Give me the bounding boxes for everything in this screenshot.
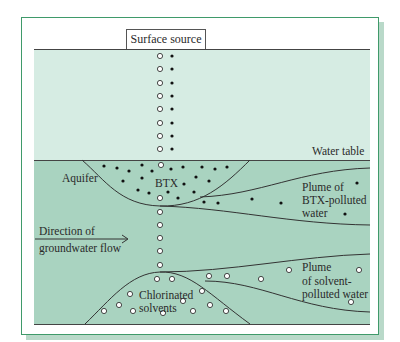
plume-btx-label-line1: Plume of: [302, 181, 344, 194]
surface-source-label: Surface source: [126, 29, 206, 49]
plume-btx-label-line2: BTX-polluted: [302, 194, 367, 207]
aquifer-label: Aquifer: [62, 172, 98, 185]
unsaturated-zone: [34, 49, 370, 160]
direction-label-line1: Direction of: [39, 225, 95, 238]
btx-label: BTX: [155, 177, 178, 190]
plume-solvent-label-line2: of solvent-: [302, 275, 352, 288]
chlorinated-solvents-label-line2: solvents: [139, 302, 177, 315]
plume-btx-label-line3: water: [302, 207, 328, 220]
plume-solvent-label-line1: Plume: [302, 261, 331, 274]
direction-label-line2: groundwater flow: [39, 242, 121, 255]
chlorinated-solvents-label-line1: Chlorinated: [139, 289, 193, 302]
plume-solvent-label-line3: polluted water: [302, 288, 368, 301]
water-table-label: Water table: [312, 145, 364, 158]
